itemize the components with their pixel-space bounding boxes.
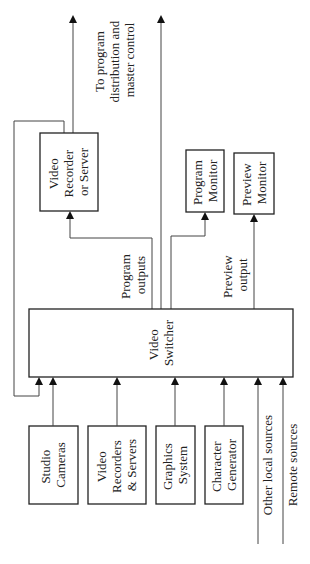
feedback-arrow	[35, 377, 43, 385]
other-local-label: Other local sources	[260, 415, 275, 515]
input-arrow-recorders	[113, 377, 121, 385]
input-arrow-remote	[279, 377, 287, 385]
source-label-chargen: Character Generator	[209, 438, 239, 492]
switcher-label: Video Switcher	[146, 319, 176, 366]
preview-monitor-arrow	[250, 214, 258, 222]
recorder-arrow	[66, 211, 74, 219]
input-arrow-graphics	[171, 377, 179, 385]
input-arrow-cameras	[49, 377, 57, 385]
remote-label: Remote sources	[285, 424, 300, 507]
program-monitor-label: Program Monitor	[190, 157, 220, 205]
distribution-label: To program distribution and master contr…	[92, 17, 137, 102]
preview-monitor-label: Preview Monitor	[239, 160, 269, 206]
distribution-arrow-2	[157, 15, 165, 23]
source-label-cameras: Studio Cameras	[38, 442, 68, 487]
distribution-arrow-1	[69, 15, 77, 23]
input-arrow-chargen	[220, 377, 228, 385]
program-monitor-arrow	[201, 212, 209, 220]
input-arrow-other-local	[254, 377, 262, 385]
preview-output-label: Preview output	[220, 252, 250, 298]
block-diagram: Video Switcher Video Recorder or Server …	[0, 0, 310, 564]
program-outputs-label: Program outputs	[118, 251, 148, 299]
program-monitor-line	[171, 219, 205, 309]
source-label-graphics: Graphics System	[160, 440, 190, 490]
